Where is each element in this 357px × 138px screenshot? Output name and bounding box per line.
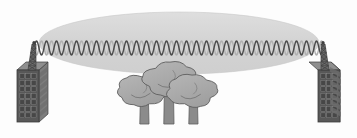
building-window — [20, 74, 25, 79]
building-window — [31, 87, 36, 92]
building-window — [20, 93, 25, 98]
building-window — [321, 74, 326, 79]
building-window — [26, 100, 31, 105]
building-window — [31, 93, 36, 98]
radio-link-diagram — [0, 0, 357, 138]
building-window — [20, 113, 25, 118]
building-window — [20, 87, 25, 92]
building-window — [26, 93, 31, 98]
building-window — [327, 113, 332, 118]
building-window — [321, 80, 326, 85]
antenna-dish-icon — [321, 41, 324, 44]
building-window — [31, 100, 36, 105]
building-window — [20, 100, 25, 105]
scene-canvas — [0, 0, 357, 138]
building-window — [20, 80, 25, 85]
building-window — [20, 106, 25, 111]
building-window — [31, 106, 36, 111]
building-window — [321, 100, 326, 105]
building-window — [26, 74, 31, 79]
antenna-dish-icon — [32, 41, 35, 44]
building-window — [26, 87, 31, 92]
building-window — [321, 93, 326, 98]
building-window — [321, 106, 326, 111]
building-window — [321, 87, 326, 92]
building-window — [26, 106, 31, 111]
building-window — [26, 113, 31, 118]
building-window — [26, 80, 31, 85]
building-window — [321, 113, 326, 118]
building-window — [31, 80, 36, 85]
building-window — [31, 113, 36, 118]
building-window — [31, 74, 36, 79]
